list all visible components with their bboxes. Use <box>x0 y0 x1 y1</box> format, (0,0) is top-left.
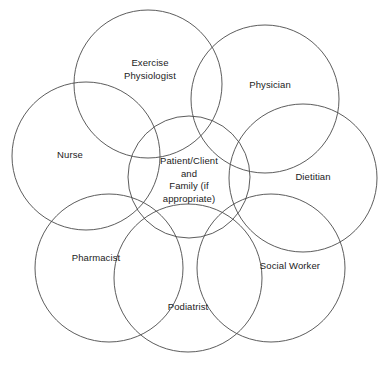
venn-circle-nurse <box>12 82 160 230</box>
venn-diagram: Exercise PhysiologistPhysicianDietitianS… <box>0 0 389 366</box>
venn-circle-physician <box>191 25 339 173</box>
venn-circle-podiatrist <box>114 204 262 352</box>
venn-circle-patient-client <box>128 116 250 238</box>
venn-circles-svg <box>0 0 389 366</box>
venn-circle-dietitian <box>229 104 377 252</box>
venn-circle-pharmacist <box>35 194 183 342</box>
venn-circle-exercise-physiologist <box>74 10 222 158</box>
venn-circle-social-worker <box>197 194 345 342</box>
